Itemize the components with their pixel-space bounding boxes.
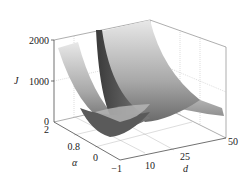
y-tick-50: 50 (228, 136, 238, 147)
y-tick-10: 10 (145, 160, 155, 171)
x-axis-label: α (72, 157, 78, 168)
y-tick-25: 25 (180, 151, 190, 162)
y-axis-label: d (183, 163, 189, 174)
z-tick-2000: 2000 (29, 35, 49, 46)
z-tick-1000: 1000 (29, 76, 49, 87)
x-tick-neg1: −1 (111, 163, 122, 174)
x-tick-2: 2 (44, 124, 49, 135)
z-axis-label: J (14, 75, 19, 86)
x-tick-0.8: 0.8 (68, 141, 81, 152)
x-tick-0: 0 (93, 152, 98, 163)
surface-plot: 2000 1000 0 J 2 0.8 0 −1 α 10 25 50 d (0, 0, 246, 183)
